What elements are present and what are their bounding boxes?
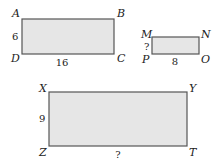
rectangle-xytz: X Y T Z 9 ? [38, 82, 198, 160]
vertex-m: M [140, 28, 153, 41]
vertex-z: Z [38, 146, 47, 159]
vertex-o: O [201, 53, 210, 66]
rectangle-abcd-shape [22, 19, 114, 54]
side-ad-length: 6 [12, 31, 18, 42]
side-xz-length: 9 [39, 113, 45, 124]
vertex-n: N [200, 28, 211, 41]
vertex-a: A [11, 7, 20, 20]
side-po-length: 8 [172, 56, 178, 67]
rectangle-xytz-shape [49, 92, 187, 146]
side-dc-length: 16 [56, 57, 69, 68]
side-zt-length: ? [115, 149, 120, 160]
vertex-y: Y [189, 82, 198, 95]
vertex-x: X [38, 82, 48, 95]
vertex-t: T [189, 146, 198, 159]
side-mp-length: ? [144, 41, 149, 52]
rectangle-abcd: A B C D 6 16 [10, 7, 126, 68]
vertex-d: D [10, 52, 20, 65]
vertex-c: C [117, 52, 126, 65]
rectangle-mnop: M N O P ? 8 [140, 28, 211, 67]
rectangle-mnop-shape [152, 37, 199, 54]
vertex-b: B [116, 7, 125, 20]
vertex-p: P [141, 53, 150, 66]
similar-rectangles-diagram: A B C D 6 16 M N O P ? 8 X Y T Z 9 ? [0, 0, 217, 165]
